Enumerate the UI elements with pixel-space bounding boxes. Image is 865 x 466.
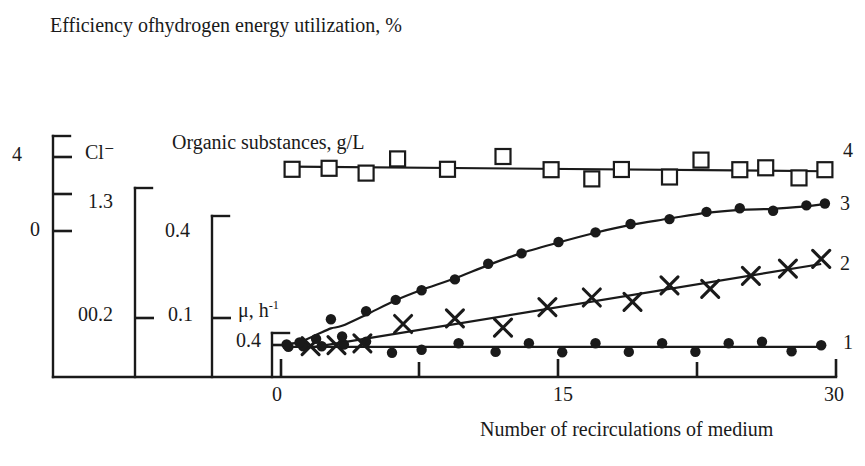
data-point-circle bbox=[337, 331, 347, 341]
data-point-circle bbox=[701, 207, 711, 217]
data-point-circle bbox=[724, 338, 734, 348]
third-axis-tick-label-0p4: 0.4 bbox=[165, 219, 190, 241]
data-point-circle bbox=[450, 274, 460, 284]
data-point-circle bbox=[735, 203, 745, 213]
data-point-circle bbox=[453, 338, 463, 348]
data-point-circle bbox=[768, 206, 778, 216]
data-point-square bbox=[584, 171, 599, 186]
data-point-circle bbox=[757, 337, 767, 347]
data-point-circle bbox=[326, 314, 336, 324]
data-point-square bbox=[359, 166, 374, 181]
data-point-circle bbox=[490, 347, 500, 357]
data-point-circle bbox=[361, 306, 371, 316]
data-point-circle bbox=[786, 346, 796, 356]
fourth-axis-tick-label-0p4: 0.4 bbox=[236, 329, 261, 351]
data-point-circle bbox=[553, 237, 563, 247]
data-point-circle bbox=[625, 219, 635, 229]
data-point-square bbox=[285, 162, 300, 177]
tick-marks-group bbox=[53, 157, 836, 377]
series-4-label: 4 bbox=[843, 139, 853, 161]
data-point-circle bbox=[483, 259, 493, 269]
fourth-axis-unit-base: μ, h bbox=[238, 299, 269, 321]
data-point-circle bbox=[557, 347, 567, 357]
third-axis-unit-label: Organic substances, g/L bbox=[172, 131, 282, 153]
data-point-square bbox=[758, 160, 773, 175]
data-point-circle bbox=[801, 200, 811, 210]
chart-svg bbox=[0, 0, 865, 466]
x-axis-tick-label-30: 30 bbox=[824, 383, 844, 405]
primary-axis-tick-label-20: 4 bbox=[12, 143, 22, 165]
data-point-square bbox=[662, 170, 677, 185]
data-point-circle bbox=[516, 248, 526, 258]
series-2-trend-line bbox=[311, 264, 822, 348]
data-point-square bbox=[792, 170, 807, 185]
data-point-square bbox=[440, 162, 455, 177]
data-point-circle bbox=[387, 348, 397, 358]
data-point-cross bbox=[395, 316, 412, 333]
data-point-cross bbox=[661, 277, 678, 294]
x-axis-tick-label-0: 0 bbox=[272, 383, 282, 405]
series-2-markers bbox=[302, 250, 830, 354]
series-4-markers bbox=[285, 149, 833, 186]
data-point-circle bbox=[281, 339, 291, 349]
fourth-axis-unit-label: μ, h-1 bbox=[238, 299, 279, 321]
data-point-circle bbox=[590, 227, 600, 237]
data-point-circle bbox=[391, 295, 401, 305]
fourth-axis-unit-exponent: -1 bbox=[269, 298, 279, 312]
primary-axis-tick-label-0: 0 bbox=[30, 218, 40, 240]
data-point-square bbox=[390, 151, 405, 166]
second-axis-tick-label-1p3: 1.3 bbox=[88, 190, 113, 212]
data-point-circle bbox=[294, 337, 304, 347]
data-point-circle bbox=[664, 214, 674, 224]
data-point-circle bbox=[590, 338, 600, 348]
data-point-square bbox=[817, 162, 832, 177]
data-point-square bbox=[496, 149, 511, 164]
series-trend-lines bbox=[287, 167, 825, 348]
second-axis-unit-label: Cl⁻ bbox=[85, 141, 114, 163]
data-point-square bbox=[322, 161, 337, 176]
chart-title: Efficiency ofhydrogen energy utilization… bbox=[50, 14, 275, 36]
series-3-trend-line bbox=[287, 204, 825, 344]
x-axis-label: Number of recirculations of medium bbox=[480, 418, 773, 440]
data-point-circle bbox=[416, 285, 426, 295]
data-point-circle bbox=[816, 340, 826, 350]
x-axis-tick-label-15: 15 bbox=[553, 383, 573, 405]
data-point-cross bbox=[583, 289, 600, 306]
data-point-circle bbox=[690, 347, 700, 357]
figure-canvas: Efficiency ofhydrogen energy utilization… bbox=[0, 0, 865, 466]
data-point-square bbox=[694, 153, 709, 168]
third-axis-tick-label-0p1: 0.1 bbox=[168, 303, 193, 325]
data-point-circle bbox=[624, 347, 634, 357]
data-point-circle bbox=[820, 198, 830, 208]
second-axis-tick-label-00p2: 00.2 bbox=[78, 303, 113, 325]
series-1-label: 1 bbox=[843, 331, 853, 353]
data-point-square bbox=[732, 162, 747, 177]
data-point-square bbox=[614, 162, 629, 177]
series-3-label: 3 bbox=[840, 192, 850, 214]
data-point-cross bbox=[495, 319, 512, 336]
data-point-circle bbox=[416, 345, 426, 355]
data-point-circle bbox=[657, 338, 667, 348]
data-point-square bbox=[544, 162, 559, 177]
series-2-label: 2 bbox=[840, 252, 850, 274]
data-point-circle bbox=[524, 338, 534, 348]
data-point-circle bbox=[311, 334, 321, 344]
